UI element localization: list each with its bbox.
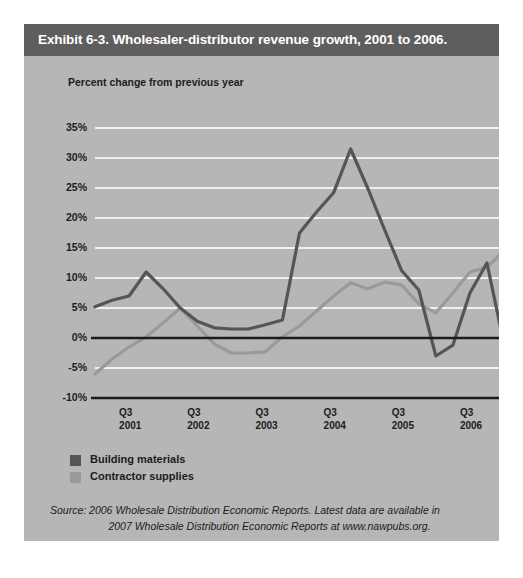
y-axis-tick-label: 20% [47, 211, 87, 223]
x-axis-tick-label: Q32004 [324, 406, 364, 432]
x-axis-tick-label: Q32001 [119, 406, 159, 432]
y-axis-tick-label: 15% [47, 241, 87, 253]
x-tick-year: 2004 [324, 419, 364, 432]
y-axis-tick-label: 30% [47, 151, 87, 163]
x-tick-quarter: Q3 [255, 406, 295, 419]
y-axis-tick-label: 0% [47, 331, 87, 343]
x-tick-quarter: Q3 [187, 406, 227, 419]
x-tick-year: 2003 [255, 419, 295, 432]
x-tick-year: 2005 [392, 419, 432, 432]
x-tick-quarter: Q3 [324, 406, 364, 419]
y-axis-tick-label: 10% [47, 271, 87, 283]
source-line-2: 2007 Wholesale Distribution Economic Rep… [50, 518, 475, 534]
y-axis-tick-label: -5% [47, 361, 87, 373]
legend-swatch-icon [70, 472, 81, 483]
x-tick-year: 2006 [460, 419, 500, 432]
series-group [95, 149, 499, 374]
legend-swatch-icon [70, 455, 81, 466]
x-tick-year: 2002 [187, 419, 227, 432]
x-tick-quarter: Q3 [119, 406, 159, 419]
legend-label: Building materials [90, 453, 185, 465]
x-axis-tick-label: Q32005 [392, 406, 432, 432]
x-tick-quarter: Q3 [392, 406, 432, 419]
x-axis-tick-label: Q32006 [460, 406, 500, 432]
y-axis-tick-label: 5% [47, 301, 87, 313]
source-note: Source: 2006 Wholesale Distribution Econ… [50, 502, 475, 534]
legend-label: Contractor supplies [90, 470, 194, 482]
y-axis-tick-label: 35% [47, 121, 87, 133]
y-axis-tick-label: -10% [47, 391, 87, 403]
exhibit-panel: Exhibit 6-3. Wholesaler-distributor reve… [24, 24, 499, 541]
x-tick-year: 2001 [119, 419, 159, 432]
x-axis-tick-label: Q32003 [255, 406, 295, 432]
y-axis-tick-label: 25% [47, 181, 87, 193]
x-axis-tick-label: Q32002 [187, 406, 227, 432]
x-tick-quarter: Q3 [460, 406, 500, 419]
source-line-1: Source: 2006 Wholesale Distribution Econ… [50, 502, 475, 518]
